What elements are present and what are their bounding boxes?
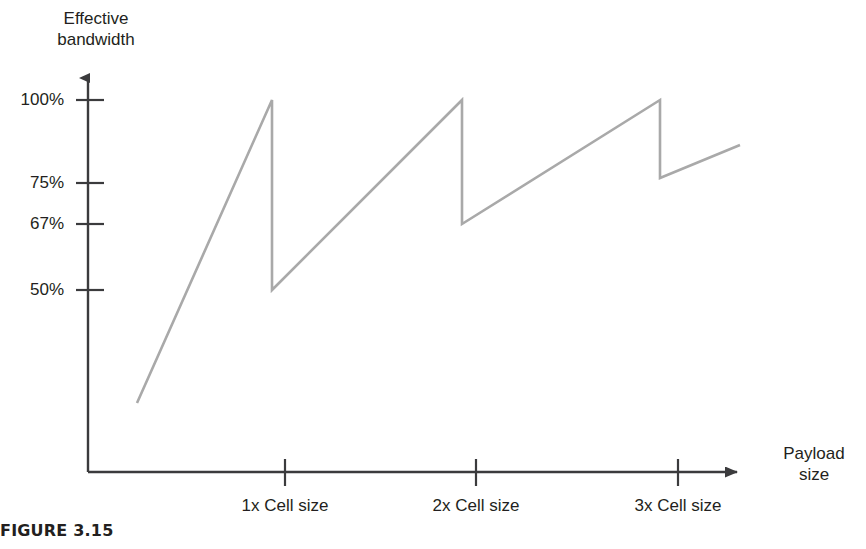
y-tick-label-50: 50%: [2, 281, 64, 298]
y-axis-title: Effective bandwidth: [26, 8, 166, 50]
bandwidth-sawtooth-curve: [137, 100, 740, 403]
figure-container: Effective bandwidth Payload size 100% 75…: [0, 0, 866, 549]
x-axis-title: Payload size: [766, 443, 862, 485]
x-tick-label-2x: 2x Cell size: [396, 497, 556, 514]
x-tick-label-1x: 1x Cell size: [205, 497, 365, 514]
figure-caption: FIGURE 3.15: [0, 521, 114, 540]
y-tick-label-100: 100%: [2, 91, 64, 108]
y-axis-ticks: [76, 100, 104, 290]
x-tick-label-3x: 3x Cell size: [598, 497, 758, 514]
chart-canvas: [0, 0, 866, 549]
y-tick-label-75: 75%: [2, 174, 64, 191]
y-tick-label-67: 67%: [2, 215, 64, 232]
